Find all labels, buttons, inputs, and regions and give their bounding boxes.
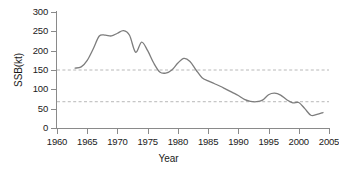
x-axis-title: Year bbox=[0, 153, 337, 164]
x-axis-tick-label: 1980 bbox=[168, 137, 188, 147]
x-axis-tick bbox=[208, 129, 209, 134]
plot-area bbox=[57, 12, 329, 128]
x-axis-tick bbox=[329, 129, 330, 134]
x-axis-tick-label: 2000 bbox=[289, 137, 309, 147]
x-axis-tick bbox=[269, 129, 270, 134]
x-axis-tick-label: 1985 bbox=[198, 137, 218, 147]
x-axis-tick-label: 1995 bbox=[258, 137, 278, 147]
y-axis-tick-label: 100 bbox=[33, 84, 48, 94]
x-axis-tick-label: 1965 bbox=[77, 137, 97, 147]
x-axis-tick bbox=[57, 129, 58, 134]
x-axis-tick bbox=[238, 129, 239, 134]
x-axis-tick-label: 1970 bbox=[107, 137, 127, 147]
x-axis-tick-label: 1990 bbox=[228, 137, 248, 147]
y-axis-tick-label: 200 bbox=[33, 46, 48, 56]
x-axis-tick bbox=[117, 129, 118, 134]
x-axis-tick bbox=[148, 129, 149, 134]
plot-svg bbox=[57, 12, 329, 128]
reference-lines-group bbox=[57, 70, 329, 102]
x-axis-tick bbox=[178, 129, 179, 134]
y-axis-tick-label: 150 bbox=[33, 65, 48, 75]
x-axis-tick-label: 2005 bbox=[319, 137, 339, 147]
y-axis-tick-label: 50 bbox=[38, 104, 48, 114]
x-axis-tick-label: 1960 bbox=[47, 137, 67, 147]
x-axis-tick bbox=[87, 129, 88, 134]
ssb-series-line bbox=[75, 31, 323, 116]
y-axis-tick-label: 0 bbox=[43, 123, 48, 133]
y-axis-tick-label: 250 bbox=[33, 26, 48, 36]
x-axis-tick bbox=[299, 129, 300, 134]
y-axis-tick-label: 300 bbox=[33, 7, 48, 17]
x-axis-line bbox=[56, 128, 330, 129]
x-axis-tick-label: 1975 bbox=[137, 137, 157, 147]
y-axis-title: SSB(kt) bbox=[13, 53, 24, 87]
